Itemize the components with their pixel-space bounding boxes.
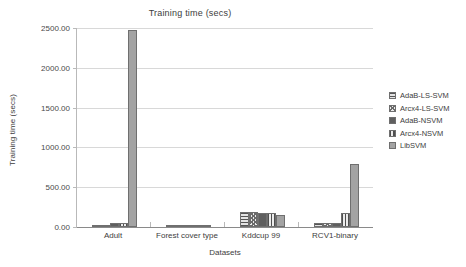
bar[interactable] [92,225,101,227]
y-axis-tick-label: 2000.00 [41,63,70,72]
legend-item-label: LibSVM [400,141,426,150]
bar[interactable] [202,225,211,227]
legend-item[interactable]: AdaB-NSVM [389,116,450,125]
legend-item-label: Arcx4-NSVM [400,129,443,138]
y-axis-tick-label: 1000.00 [41,143,70,152]
x-axis-tick-labels: AdultForest cover typeKddcup 99RCV1-bina… [76,231,372,240]
legend-swatch-icon [389,142,396,149]
bar[interactable] [314,223,323,227]
bar-groups [77,28,373,227]
legend-swatch-icon [389,105,396,112]
bar[interactable] [175,225,184,227]
legend: AdaB-LS-SVMArcx4-LS-SVMAdaB-NSVMArcx4-NS… [389,91,450,150]
bar[interactable] [110,223,119,227]
legend-swatch-icon [389,130,396,137]
chart-title: Training time (secs) [0,8,380,18]
bar[interactable] [184,225,193,227]
plot-area: 0.00500.001000.001500.002000.002500.00 [76,28,373,228]
bar[interactable] [240,212,249,227]
legend-swatch-icon [389,92,396,99]
y-axis-tick [73,227,77,228]
bar-group [299,28,373,227]
bar[interactable] [276,215,285,227]
y-axis-tick-label: 2500.00 [41,24,70,33]
x-axis-title: Datasets [75,248,375,257]
bar-group [225,28,299,227]
bar[interactable] [341,213,350,227]
legend-item-label: AdaB-LS-SVM [400,91,449,100]
bar[interactable] [101,225,110,227]
chart-container: Training time (secs) Training time (secs… [0,0,466,267]
y-axis-title: Training time (secs) [8,65,20,195]
bar-group [77,28,151,227]
bar[interactable] [119,223,128,227]
legend-item-label: Arcx4-LS-SVM [400,104,450,113]
bar[interactable] [267,213,276,227]
x-axis-tick-label: RCV1-binary [298,231,372,240]
y-axis-tick-label: 0.00 [54,223,70,232]
legend-item[interactable]: AdaB-LS-SVM [389,91,450,100]
bar[interactable] [323,223,332,227]
bar[interactable] [166,225,175,227]
x-axis-tick-label: Adult [76,231,150,240]
bar[interactable] [128,30,137,227]
bar[interactable] [249,212,258,227]
legend-item[interactable]: Arcx4-NSVM [389,129,450,138]
bar[interactable] [258,213,267,227]
y-axis-tick-label: 1500.00 [41,103,70,112]
legend-item-label: AdaB-NSVM [400,116,443,125]
legend-swatch-icon [389,117,396,124]
bar[interactable] [332,223,341,227]
bar-group [151,28,225,227]
x-axis-tick-label: Kddcup 99 [224,231,298,240]
x-axis-tick-label: Forest cover type [150,231,224,240]
legend-item[interactable]: Arcx4-LS-SVM [389,104,450,113]
bar[interactable] [193,225,202,227]
legend-item[interactable]: LibSVM [389,141,450,150]
y-axis-tick-label: 500.00 [46,183,70,192]
bar[interactable] [350,164,359,227]
